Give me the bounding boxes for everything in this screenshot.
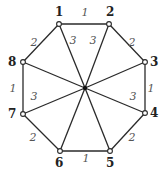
edge-weight-label: 2 <box>128 131 136 144</box>
vertex-node <box>57 22 62 27</box>
vertex-node <box>108 149 113 154</box>
vertex-node <box>21 60 26 65</box>
edge-weight-label: 2 <box>29 131 37 144</box>
spoke-weight-label: 3 <box>70 34 77 47</box>
edge-weight-label: 2 <box>128 36 136 49</box>
spoke-edge <box>85 62 145 88</box>
spoke-weight-label: 3 <box>90 34 97 47</box>
vertex-label: 1 <box>55 5 63 19</box>
vertex-node <box>143 111 148 116</box>
spoke-weight-label: 3 <box>130 90 137 103</box>
vertex-label: 8 <box>8 55 16 69</box>
hub-node <box>83 86 87 90</box>
vertex-label: 7 <box>8 107 16 121</box>
vertex-node <box>58 149 63 154</box>
vertex-label: 2 <box>106 5 114 19</box>
vertex-label: 6 <box>55 156 63 170</box>
wheel-graph-diagram: 12121212333312345678 <box>0 0 165 176</box>
rim-edge <box>23 24 59 62</box>
rim-edge <box>110 113 145 151</box>
edge-weight-label: 1 <box>83 152 90 165</box>
vertex-label: 4 <box>150 106 158 120</box>
vertex-node <box>107 22 112 27</box>
edge-weight-label: 1 <box>10 82 17 95</box>
edge-weight-label: 1 <box>148 82 155 95</box>
vertex-label: 5 <box>106 156 114 170</box>
edge-weight-label: 1 <box>82 6 89 19</box>
vertex-label: 3 <box>150 55 158 69</box>
rim-edge <box>109 24 145 62</box>
edge-weight-label: 2 <box>30 36 38 49</box>
vertex-node <box>21 112 26 117</box>
vertex-node <box>143 60 148 65</box>
spoke-weight-label: 3 <box>31 90 38 103</box>
